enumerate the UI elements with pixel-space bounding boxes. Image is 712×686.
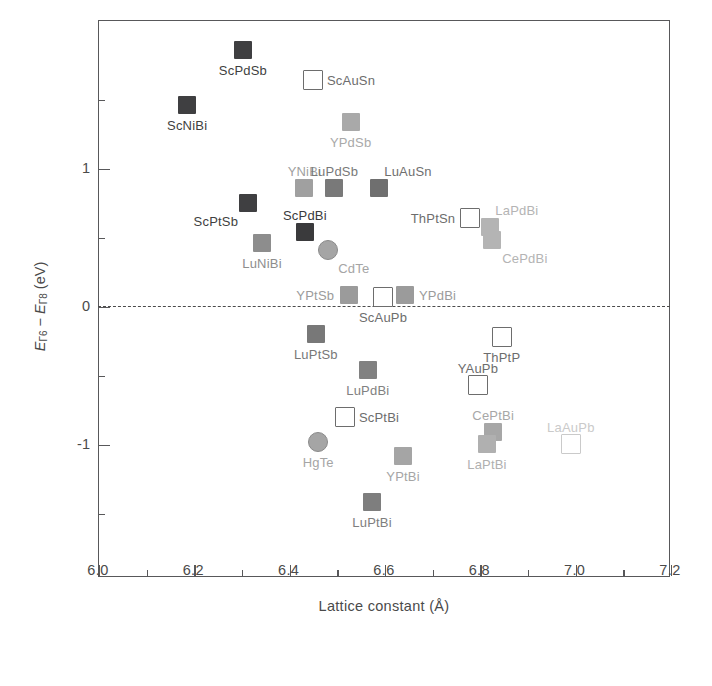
filled-square-marker-icon xyxy=(295,179,313,197)
filled-circle-marker-icon xyxy=(318,240,338,260)
data-point-hgte xyxy=(308,432,328,452)
data-point-label: LaAuPb xyxy=(547,420,594,435)
x-axis-minor-tick xyxy=(242,570,243,576)
data-point-label: CePtBi xyxy=(472,408,514,423)
data-point-laaupb xyxy=(561,434,581,454)
open-square-marker-icon xyxy=(303,70,323,90)
x-axis-title: Lattice constant (Å) xyxy=(98,598,670,614)
y-axis-major-tick xyxy=(99,445,110,446)
data-point-label: ScPtBi xyxy=(359,410,399,425)
data-point-label: ScPdSb xyxy=(219,63,267,78)
data-point-label: LuNiBi xyxy=(242,256,282,271)
scatter-plot-figure: ScPdSbScNiBiScAuSnYPdSbYNiBiLuPdSbLuAuSn… xyxy=(0,0,712,686)
data-point-ypdsb xyxy=(342,113,360,131)
data-point-luausn xyxy=(370,179,388,197)
data-point-label: YAuPb xyxy=(458,361,499,376)
x-tick-label: 6.4 xyxy=(278,562,299,578)
data-point-label: YPdSb xyxy=(330,135,371,150)
data-point-ypdbi xyxy=(396,286,414,304)
filled-square-marker-icon xyxy=(325,179,343,197)
open-square-marker-icon xyxy=(335,407,355,427)
data-point-label: ScPdBi xyxy=(283,208,327,223)
y-tick-label: 0 xyxy=(68,298,90,314)
open-square-marker-icon xyxy=(468,375,488,395)
open-square-marker-icon xyxy=(460,208,480,228)
data-point-label: ScAuSn xyxy=(327,73,375,88)
filled-circle-marker-icon xyxy=(308,432,328,452)
data-point-scpdsb xyxy=(234,41,252,59)
data-point-label: ThPtSn xyxy=(411,211,456,226)
filled-square-marker-icon xyxy=(178,96,196,114)
filled-square-marker-icon xyxy=(394,447,412,465)
data-point-label: ScPtSb xyxy=(194,214,239,229)
data-point-label: CePdBi xyxy=(502,251,547,266)
open-square-marker-icon xyxy=(492,327,512,347)
open-square-marker-icon xyxy=(561,434,581,454)
data-point-label: YPtBi xyxy=(386,469,420,484)
data-point-lupdbi xyxy=(359,361,377,379)
x-tick-label: 6.0 xyxy=(87,562,108,578)
y-axis-minor-tick xyxy=(99,238,105,239)
filled-square-marker-icon xyxy=(363,493,381,511)
data-point-label: CdTe xyxy=(338,261,369,276)
data-point-cepdbi xyxy=(483,231,501,249)
data-point-label: LaPtBi xyxy=(467,457,507,472)
x-tick-label: 7.2 xyxy=(659,562,680,578)
y-axis-major-tick xyxy=(99,169,110,170)
data-point-scaupb xyxy=(373,287,393,307)
y-axis-major-tick xyxy=(99,307,110,308)
data-point-label: LuPtBi xyxy=(352,515,392,530)
data-point-ynibi xyxy=(295,179,313,197)
filled-square-marker-icon xyxy=(234,41,252,59)
y-axis-minor-tick xyxy=(99,100,105,101)
filled-square-marker-icon xyxy=(478,435,496,453)
data-point-label: YPdBi xyxy=(419,288,456,303)
x-axis-minor-tick xyxy=(337,570,338,576)
x-tick-label: 6.8 xyxy=(469,562,490,578)
x-axis-minor-tick xyxy=(528,570,529,576)
data-point-thptsn xyxy=(460,208,480,228)
data-point-label: LuPdBi xyxy=(346,383,389,398)
data-point-lupdsb xyxy=(325,179,343,197)
x-tick-label: 7.0 xyxy=(564,562,585,578)
y-axis-minor-tick xyxy=(99,376,105,377)
data-point-scausn xyxy=(303,70,323,90)
y-axis-title: EΓ6 − EΓ8 (eV) xyxy=(32,207,49,407)
filled-square-marker-icon xyxy=(253,234,271,252)
x-axis-minor-tick xyxy=(147,570,148,576)
filled-square-marker-icon xyxy=(370,179,388,197)
data-point-label: LuAuSn xyxy=(384,164,431,179)
data-point-label: YPtSb xyxy=(296,288,334,303)
data-point-label: LuPtSb xyxy=(294,347,338,362)
y-tick-label: 1 xyxy=(68,160,90,176)
filled-square-marker-icon xyxy=(342,113,360,131)
filled-square-marker-icon xyxy=(307,325,325,343)
x-tick-label: 6.6 xyxy=(373,562,394,578)
data-point-scnibi xyxy=(178,96,196,114)
data-point-scptsb xyxy=(239,194,257,212)
open-square-marker-icon xyxy=(373,287,393,307)
filled-square-marker-icon xyxy=(239,194,257,212)
data-point-scptbi xyxy=(335,407,355,427)
data-point-luptbi xyxy=(363,493,381,511)
data-point-thptp xyxy=(492,327,512,347)
y-axis-minor-tick xyxy=(99,514,105,515)
filled-square-marker-icon xyxy=(359,361,377,379)
data-point-label: HgTe xyxy=(303,455,334,470)
data-point-laptbi xyxy=(478,435,496,453)
data-point-label: ScNiBi xyxy=(167,118,207,133)
data-point-lunibi xyxy=(253,234,271,252)
x-axis-minor-tick xyxy=(433,570,434,576)
filled-square-marker-icon xyxy=(396,286,414,304)
data-point-luptsb xyxy=(307,325,325,343)
data-point-label: ScAuPb xyxy=(359,310,407,325)
x-axis-minor-tick xyxy=(623,570,624,576)
data-point-yptbi xyxy=(394,447,412,465)
data-point-scpdbi xyxy=(296,223,314,241)
filled-square-marker-icon xyxy=(340,286,358,304)
data-point-label: LaPdBi xyxy=(495,203,538,218)
x-tick-label: 6.2 xyxy=(183,562,204,578)
filled-square-marker-icon xyxy=(296,223,314,241)
filled-square-marker-icon xyxy=(483,231,501,249)
data-point-yaupb xyxy=(468,375,488,395)
